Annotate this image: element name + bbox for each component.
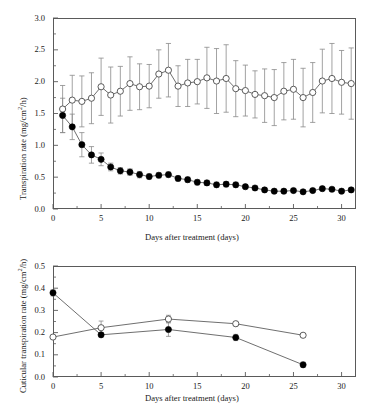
x-tick-label: 0 — [41, 214, 65, 223]
y-tick-label: 3.0 — [0, 14, 45, 23]
x-tick-label: 30 — [330, 382, 354, 391]
figure-container: 0.00.51.01.52.02.53.0 051015202530 Trans… — [0, 0, 380, 413]
top-transpiration-panel: 0.00.51.01.52.02.53.0 051015202530 Trans… — [0, 0, 380, 250]
x-tick-label: 25 — [281, 382, 305, 391]
bottom-cuticular-panel: 0.00.10.20.30.40.5 051015202530 Cuticula… — [0, 255, 380, 413]
y-tick-label: 0.0 — [0, 205, 45, 214]
y-tick-label: 2.0 — [0, 77, 45, 86]
bottom-y-axis-title: Cuticular transpiration rate (mg/cm2/h) — [16, 259, 28, 393]
x-tick-label: 10 — [137, 382, 161, 391]
x-tick-label: 25 — [281, 214, 305, 223]
y-tick-label: 2.5 — [0, 45, 45, 54]
top-plot-canvas — [0, 0, 380, 250]
x-tick-label: 15 — [185, 382, 209, 391]
x-tick-label: 5 — [89, 382, 113, 391]
x-tick-label: 20 — [233, 214, 257, 223]
x-tick-label: 5 — [89, 214, 113, 223]
top-x-axis-title: Days after treatment (days) — [145, 232, 239, 242]
x-tick-label: 15 — [185, 214, 209, 223]
top-y-axis-title: Transpiration rate (mg/cm2/h) — [16, 97, 28, 200]
x-tick-label: 0 — [41, 382, 65, 391]
x-tick-label: 30 — [330, 214, 354, 223]
x-tick-label: 20 — [233, 382, 257, 391]
bottom-x-axis-title: Days after treatment (days) — [145, 393, 239, 403]
x-tick-label: 10 — [137, 214, 161, 223]
